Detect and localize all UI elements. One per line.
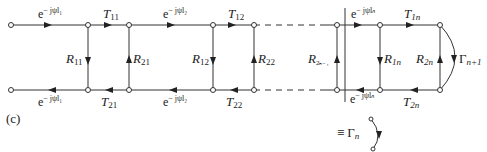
arrow-right-icon <box>406 22 414 28</box>
arrow-left-icon <box>410 87 418 93</box>
arrow-right-icon <box>104 22 112 28</box>
gamma-n-arc <box>371 119 378 149</box>
label-prop1-top: e− jψl₁ <box>38 6 62 21</box>
label-propn-bottom: e− jψlₙ <box>350 91 374 106</box>
arrow-up-icon <box>334 55 340 63</box>
node <box>127 88 132 93</box>
node <box>335 23 340 28</box>
label-R1n: R1n <box>383 51 401 67</box>
arrow-right-icon <box>228 22 236 28</box>
node <box>86 88 91 93</box>
arrow-right-icon <box>354 22 362 28</box>
node <box>86 23 91 28</box>
node <box>369 117 373 121</box>
node <box>252 88 257 93</box>
label-T21: T21 <box>101 94 117 110</box>
arrow-left-icon <box>105 87 113 93</box>
arrow-right-icon <box>167 22 175 28</box>
arrow-up-icon <box>251 55 257 63</box>
label-R2n: R2n <box>415 51 433 67</box>
arrow-down-icon <box>377 57 383 65</box>
node <box>438 88 443 93</box>
signal-flow-graph: e− jψl₁ T11 e− jψl₂ T12 e− jψlₙ T1n e− j… <box>0 0 487 152</box>
label-prop2-top: e− jψl₂ <box>163 6 187 21</box>
node <box>438 23 443 28</box>
label-R2n-1: R2ₙ₋₁ <box>307 51 329 67</box>
node <box>371 147 375 151</box>
node <box>378 23 383 28</box>
label-R21: R21 <box>132 51 150 67</box>
node <box>9 23 14 28</box>
arrow-left-icon <box>230 87 238 93</box>
node <box>211 88 216 93</box>
arrow-left-icon <box>48 87 56 93</box>
label-R12: R12 <box>191 51 209 67</box>
node <box>211 23 216 28</box>
label-T12: T12 <box>228 6 244 22</box>
label-gamma-n-equivalent: ≡Γn <box>337 125 360 141</box>
arrow-down-icon <box>85 57 91 65</box>
label-T22: T22 <box>226 94 242 110</box>
label-R22: R22 <box>257 51 275 67</box>
label-propn-top: e− jψlₙ <box>351 6 375 21</box>
node <box>378 88 383 93</box>
label-T2n: T2n <box>403 94 420 110</box>
arrow-right-icon <box>44 22 52 28</box>
label-R11: R11 <box>65 51 83 67</box>
arrow-left-icon <box>169 87 177 93</box>
arrow-down-icon <box>376 131 382 139</box>
label-prop1-bottom: e− jψl₁ <box>38 94 62 109</box>
arrow-up-icon <box>437 55 443 63</box>
node <box>335 88 340 93</box>
arrow-down-icon <box>210 57 216 65</box>
label-T1n: T1n <box>404 6 421 22</box>
label-T11: T11 <box>103 6 119 22</box>
figure-caption: (c) <box>6 111 20 126</box>
label-prop2-bottom: e− jψl₂ <box>163 94 187 109</box>
node <box>9 88 14 93</box>
arrow-up-icon <box>126 55 132 63</box>
node <box>252 23 257 28</box>
node <box>127 23 132 28</box>
arrow-down-icon <box>451 55 457 63</box>
label-gamma-load: Γn+1 <box>459 51 482 67</box>
